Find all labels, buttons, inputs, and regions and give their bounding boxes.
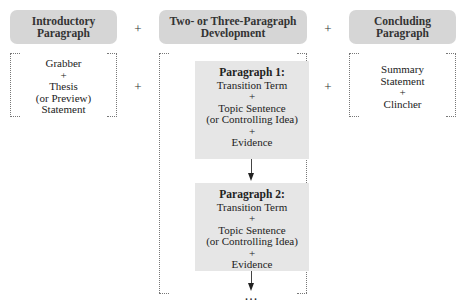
paragraph-1-box: Paragraph 1: Transition Term + Topic Sen… (195, 61, 309, 159)
introductory-content-bracket: Grabber + Thesis (or Preview) Statement (10, 53, 117, 117)
bracket-line (159, 53, 160, 293)
introductory-content: Grabber + Thesis (or Preview) Statement (10, 58, 117, 116)
paragraph-plus: + (195, 213, 309, 225)
content-line-grabber: Grabber (10, 58, 117, 70)
continuation-ellipsis: ... (239, 292, 265, 302)
concluding-content: Summary Statement + Clincher (349, 64, 456, 110)
bracket-tick (159, 293, 169, 294)
plus-operator: + (322, 22, 334, 35)
bracket-tick (349, 53, 359, 54)
header-line: Development (170, 27, 297, 39)
bracket-tick (10, 116, 20, 117)
plus-operator: + (132, 22, 144, 35)
header-development: Two- or Three-Paragraph Development (159, 10, 307, 44)
content-line-thesis: Thesis (10, 81, 117, 93)
paragraph-line: Evidence (195, 137, 309, 149)
content-plus: + (349, 87, 456, 99)
header-line: Two- or Three-Paragraph (170, 15, 297, 27)
header-line: Paragraph (374, 27, 431, 39)
plus-operator: + (132, 80, 144, 93)
bracket-tick (349, 116, 359, 117)
plus-operator: + (322, 80, 334, 93)
header-line: Concluding (374, 15, 431, 27)
bracket-tick (107, 116, 117, 117)
bracket-tick (107, 53, 117, 54)
paragraph-2-title: Paragraph 2: (195, 189, 309, 201)
header-concluding-paragraph: Concluding Paragraph (349, 10, 456, 44)
content-line-clincher: Clincher (349, 99, 456, 111)
paragraph-line: (or Controlling Idea) (195, 236, 309, 248)
paragraph-line: Evidence (195, 259, 309, 271)
bracket-tick (297, 53, 307, 54)
paragraph-2-box: Paragraph 2: Transition Term + Topic Sen… (195, 183, 309, 271)
bracket-tick (297, 293, 307, 294)
concluding-content-bracket: Summary Statement + Clincher (349, 53, 456, 117)
bracket-tick (446, 53, 456, 54)
development-content-bracket: Paragraph 1: Transition Term + Topic Sen… (159, 53, 307, 293)
header-line: Paragraph (32, 27, 96, 39)
header-line: Introductory (32, 15, 96, 27)
paragraph-line: (or Controlling Idea) (195, 114, 309, 126)
content-line-summary: Summary (349, 64, 456, 76)
bracket-tick (159, 53, 169, 54)
content-line-statement: Statement (10, 104, 117, 116)
header-introductory-paragraph: Introductory Paragraph (10, 10, 117, 44)
paragraph-plus: + (195, 91, 309, 103)
paragraph-1-title: Paragraph 1: (195, 67, 309, 79)
bracket-tick (10, 53, 20, 54)
bracket-tick (446, 116, 456, 117)
